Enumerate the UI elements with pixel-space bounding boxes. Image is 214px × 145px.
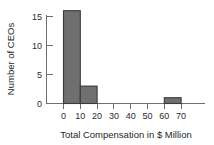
x-axis-tick-labels: 0 10 20 30 40 50 60 70 xyxy=(61,111,186,121)
y-tick-label-0: 0 xyxy=(37,99,42,109)
y-axis-title: Number of CEOs xyxy=(5,23,16,96)
histogram-chart: 0 5 10 15 0 10 20 30 40 50 60 70 xyxy=(0,0,214,145)
y-tick-label-5: 5 xyxy=(37,70,42,80)
x-tick-label-10: 10 xyxy=(75,111,85,121)
y-tick-label-15: 15 xyxy=(32,12,42,22)
x-tick-label-0: 0 xyxy=(61,111,66,121)
y-axis-tick-labels: 0 5 10 15 xyxy=(32,12,42,109)
x-axis-ticks xyxy=(64,104,182,110)
x-tick-label-20: 20 xyxy=(92,111,102,121)
x-tick-label-50: 50 xyxy=(142,111,152,121)
x-tick-label-40: 40 xyxy=(126,111,136,121)
bar-10-20 xyxy=(80,86,97,103)
x-axis-title: Total Compensation in $ Million xyxy=(60,129,191,140)
bar-60-70 xyxy=(164,98,181,104)
bars-group xyxy=(64,11,182,104)
y-tick-label-10: 10 xyxy=(32,41,42,51)
y-axis-ticks xyxy=(47,17,53,104)
x-tick-label-30: 30 xyxy=(109,111,119,121)
x-tick-label-70: 70 xyxy=(176,111,186,121)
chart-canvas: 0 5 10 15 0 10 20 30 40 50 60 70 xyxy=(0,0,214,145)
bar-0-10 xyxy=(64,11,81,104)
x-tick-label-60: 60 xyxy=(159,111,169,121)
